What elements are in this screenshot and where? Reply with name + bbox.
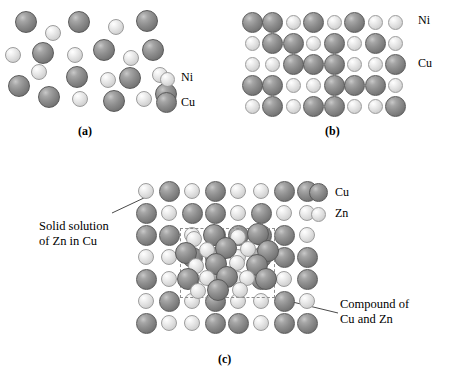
atom-dark-compound17 bbox=[255, 268, 277, 290]
panel-c-legend-label-cu: Cu bbox=[335, 185, 349, 200]
panel-c-legend-swatch-cu bbox=[309, 183, 328, 202]
annotation-solid-solution: Solid solution of Zn in Cu bbox=[39, 219, 109, 249]
annotation-compound-line1: Compound of bbox=[340, 297, 409, 312]
annotation-solid-solution-line2: of Zn in Cu bbox=[39, 234, 109, 249]
atom-light-compound18 bbox=[190, 283, 206, 299]
atom-light-compound20 bbox=[232, 282, 248, 298]
alloy-microstructure-figure: Ni Cu (a) Ni Cu (b) Cu Zn Solid solution… bbox=[0, 0, 458, 376]
panel-c-legend-label-zn: Zn bbox=[335, 206, 348, 221]
panel-c-legend-swatch-zn bbox=[311, 207, 326, 222]
annotation-compound-line2: Cu and Zn bbox=[340, 312, 409, 327]
atom-dark-compound19 bbox=[207, 279, 229, 301]
annotation-compound: Compound of Cu and Zn bbox=[340, 297, 409, 327]
panel-c-caption: (c) bbox=[218, 352, 231, 367]
annotation-solid-solution-line1: Solid solution bbox=[39, 219, 109, 234]
